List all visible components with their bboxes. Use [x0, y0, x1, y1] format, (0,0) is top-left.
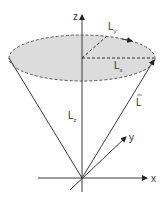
y-axis	[70, 137, 126, 190]
y-axis-label: y	[129, 132, 134, 143]
Lz-label: Lz	[68, 110, 77, 123]
x-axis-label: x	[151, 173, 156, 184]
precession-diagram: z x y Ly Lx Lz L	[0, 0, 166, 202]
L-vector-label: L	[136, 97, 142, 108]
Ly-label: Ly	[108, 21, 117, 34]
z-axis-label: z	[73, 11, 78, 22]
